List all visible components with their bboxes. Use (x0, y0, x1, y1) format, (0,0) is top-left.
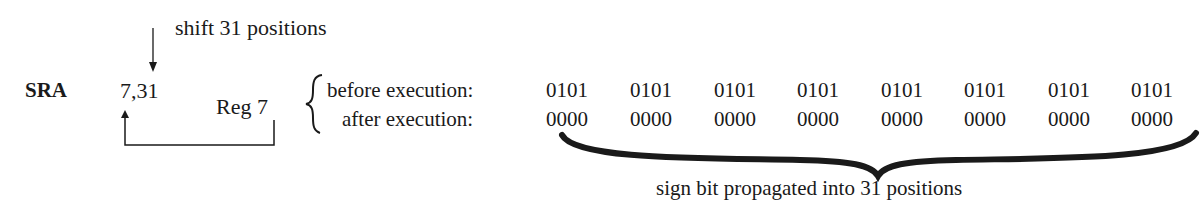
bit-group: 0000 (797, 109, 839, 130)
bit-group: 0000 (546, 109, 588, 130)
bit-group: 0101 (1131, 80, 1173, 101)
bit-group: 0101 (630, 80, 672, 101)
mnemonic-sra: SRA (25, 80, 67, 101)
before-label: before execution: (327, 80, 473, 101)
bit-group: 0000 (1048, 109, 1090, 130)
bit-group: 0101 (964, 80, 1006, 101)
brace-caption: sign bit propagated into 31 positions (656, 178, 962, 199)
shift-annotation: shift 31 positions (175, 17, 327, 39)
bit-group: 0000 (714, 109, 756, 130)
operands: 7,31 (120, 80, 159, 102)
bit-group: 0000 (964, 109, 1006, 130)
bit-group: 0101 (546, 80, 588, 101)
bit-group: 0000 (1131, 109, 1173, 130)
bit-group: 0000 (881, 109, 923, 130)
bit-group: 0000 (630, 109, 672, 130)
bit-group: 0101 (714, 80, 756, 101)
bit-group: 0101 (881, 80, 923, 101)
after-label: after execution: (342, 109, 473, 130)
register-label: Reg 7 (216, 96, 268, 118)
bit-group: 0101 (1048, 80, 1090, 101)
bit-group: 0101 (797, 80, 839, 101)
